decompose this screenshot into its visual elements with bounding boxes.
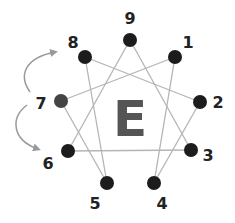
node-label-7: 7 [35, 94, 46, 113]
arrow-7-to-8 [24, 52, 55, 92]
node-dot-1 [168, 50, 182, 64]
node-6: 6 [42, 144, 75, 173]
enneagram-diagram: E 912345678 [0, 0, 235, 223]
node-3: 3 [184, 143, 214, 165]
node-5: 5 [89, 176, 114, 213]
node-2: 2 [193, 93, 224, 112]
node-label-9: 9 [124, 9, 135, 28]
node-label-4: 4 [156, 194, 167, 213]
node-7: 7 [35, 94, 68, 113]
node-label-1: 1 [182, 33, 193, 52]
node-dot-6 [61, 144, 75, 158]
node-dot-2 [193, 95, 207, 109]
node-dot-9 [123, 33, 137, 47]
node-label-3: 3 [202, 146, 213, 165]
node-4: 4 [147, 176, 168, 213]
node-dot-5 [100, 176, 114, 190]
node-8: 8 [67, 33, 92, 64]
node-1: 1 [168, 33, 194, 64]
node-label-5: 5 [89, 194, 100, 213]
node-dot-3 [184, 143, 198, 157]
node-dot-7 [54, 94, 68, 108]
node-label-6: 6 [42, 154, 53, 173]
node-9: 9 [123, 9, 137, 47]
node-label-8: 8 [67, 33, 78, 52]
node-dot-4 [147, 176, 161, 190]
node-label-2: 2 [212, 93, 223, 112]
center-letter: E [113, 90, 147, 148]
node-dot-8 [78, 50, 92, 64]
